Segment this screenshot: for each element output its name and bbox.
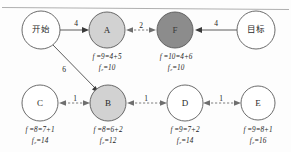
edge-a-f: 2	[126, 21, 156, 33]
diagram-page: 4 6 2 4 1	[0, 0, 291, 152]
node-d-cost-f2: f₂=14	[177, 137, 194, 145]
edge-goal-f: 4	[195, 19, 237, 33]
node-a-cost-f2: f₂=10	[99, 64, 116, 72]
node-f-cost-f: f =10=4+6	[160, 53, 193, 61]
edge-start-a: 4	[60, 19, 89, 33]
node-c-cost-f: f =8=7+1	[25, 126, 54, 134]
node-c-cost-f2: f₂=14	[32, 137, 49, 145]
edge-weight-start-a: 4	[74, 19, 78, 28]
node-start[interactable]: 开始	[22, 11, 60, 49]
edge-b-c: 1	[59, 94, 90, 106]
node-a-label: A	[104, 25, 111, 35]
node-e-label: E	[255, 98, 261, 108]
node-d-cost-f: f =9=7+2	[170, 126, 200, 134]
node-goal-label: 目标	[247, 24, 265, 34]
edge-weight-d-e: 1	[219, 94, 223, 103]
edge-weight-a-f: 2	[139, 21, 143, 30]
top-divider-rule	[2, 8, 289, 10]
node-b[interactable]: B f =8=6+2 f₂=12	[90, 85, 126, 145]
node-b-label: B	[105, 98, 111, 108]
node-f[interactable]: F f =10=4+6 f₂=10	[157, 12, 193, 72]
node-start-label: 开始	[32, 24, 50, 34]
node-a[interactable]: A f =9=4+5 f₂=10	[89, 12, 125, 72]
node-goal[interactable]: 目标	[237, 11, 275, 49]
node-a-cost-f: f =9=4+5	[92, 53, 122, 61]
edge-b-d: 1	[127, 94, 167, 106]
node-c[interactable]: C f =8=7+1 f₂=14	[22, 85, 58, 145]
edge-weight-start-b: 6	[62, 65, 66, 74]
search-graph-diagram: 4 6 2 4 1	[0, 0, 291, 152]
edge-d-e: 1	[203, 94, 241, 106]
edge-weight-b-c: 1	[73, 94, 77, 103]
node-d-label: D	[182, 98, 189, 108]
node-b-cost-f2: f₂=12	[100, 137, 117, 145]
node-d[interactable]: D f =9=7+2 f₂=14	[167, 85, 203, 145]
edge-weight-b-d: 1	[144, 94, 148, 103]
node-f-cost-f2: f₂=10	[168, 64, 185, 72]
node-f-label: F	[172, 25, 177, 35]
edge-weight-goal-f: 4	[214, 19, 218, 28]
node-e-cost-f2: f₂=16	[250, 137, 267, 145]
node-b-cost-f: f =8=6+2	[93, 126, 123, 134]
node-e-cost-f: f =9=8+1	[243, 126, 272, 134]
node-c-label: C	[37, 98, 43, 108]
node-e[interactable]: E f =9=8+1 f₂=16	[241, 86, 275, 145]
